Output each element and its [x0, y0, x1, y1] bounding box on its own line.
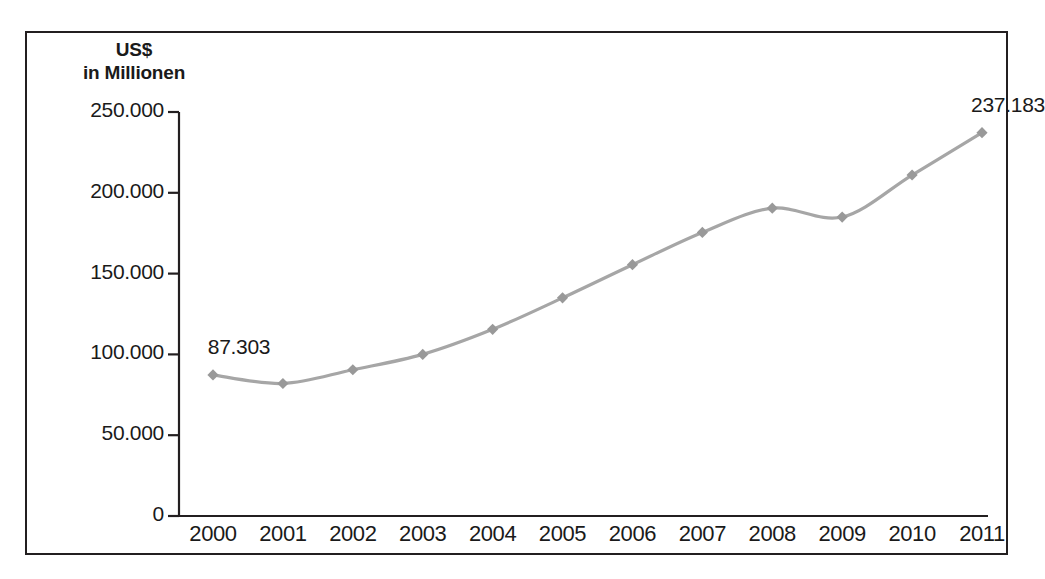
data-point-marker: [417, 349, 428, 360]
data-point-marker: [347, 364, 358, 375]
data-series-line: [213, 133, 982, 384]
data-point-marker: [207, 369, 218, 380]
data-point-marker: [627, 259, 638, 270]
data-point-marker: [767, 203, 778, 214]
data-point-marker: [837, 211, 848, 222]
axis-lines: [179, 112, 988, 516]
data-point-marker: [697, 227, 708, 238]
data-point-marker: [557, 292, 568, 303]
data-point-marker: [487, 324, 498, 335]
data-point-marker: [277, 378, 288, 389]
